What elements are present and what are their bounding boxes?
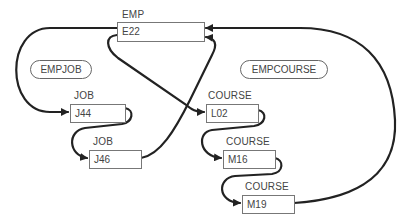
record-type-label-course: COURSE (208, 90, 252, 101)
record-type-label-course: COURSE (245, 181, 289, 192)
record-course-m19: M19 (242, 195, 295, 214)
record-type-label-course: COURSE (226, 136, 270, 147)
set-name-empcourse: EMPCOURSE (240, 60, 328, 79)
record-course-l02: L02 (206, 104, 259, 123)
record-type-label-job: JOB (93, 136, 113, 147)
pointer-j46-to-e22 (141, 37, 215, 158)
set-name-empjob: EMPJOB (30, 60, 92, 79)
record-type-label-job: JOB (74, 90, 94, 101)
record-course-m16: M16 (223, 150, 276, 169)
record-type-label-emp: EMP (122, 9, 144, 20)
record-emp-e22: E22 (117, 22, 205, 42)
record-job-j46: J46 (89, 150, 142, 169)
record-job-j44: J44 (70, 104, 126, 123)
